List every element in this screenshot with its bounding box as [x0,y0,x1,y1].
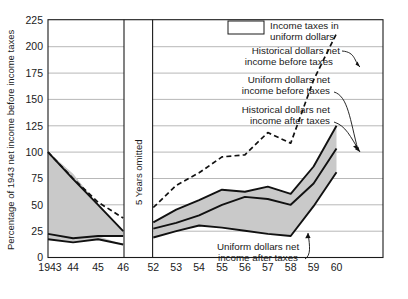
annotation-historical-after-taxes: Historical dollars net income after taxe… [242,104,360,152]
y-tick: 225 [25,14,43,26]
y-tick-labels: 225 200 175 150 125 100 75 50 25 0 [25,14,43,264]
x-tick: 46 [117,261,129,273]
annotation-historical-before-taxes: Historical dollars net income before tax… [245,45,360,67]
y-tick: 100 [25,146,43,158]
x-tick: 1943 [38,261,62,273]
annotation-line2: income before taxes [242,85,330,96]
annotation-line1: Historical dollars net [242,104,330,115]
y-tick: 175 [25,67,43,79]
band-left [48,152,123,244]
y-tick: 25 [31,225,43,237]
y-tick: 200 [25,40,43,52]
annotation-uniform-after-taxes: Uniform dollars net income after taxes [217,233,311,263]
legend: Income taxes in uniform dollars [228,20,339,42]
y-tick: 50 [31,199,43,211]
annotation-line2: income after taxes [218,252,298,263]
x-tick: 45 [92,261,104,273]
y-tick: 150 [25,93,43,105]
axis-break-gap [124,19,153,258]
x-tick: 53 [170,261,182,273]
x-tick: 52 [147,261,159,273]
x-tick: 54 [193,261,205,273]
annotation-line1: Uniform dollars net [217,241,299,252]
annotation-line1: Historical dollars net [252,45,340,56]
legend-swatch [228,21,264,34]
y-tick: 125 [25,120,43,132]
chart-figure: 225 200 175 150 125 100 75 50 25 0 Perce… [0,0,408,299]
x-tick: 44 [67,261,79,273]
annotation-line1: Uniform dollars net [248,74,330,85]
x-tick: 60 [331,261,343,273]
chart-canvas: 225 200 175 150 125 100 75 50 25 0 Perce… [0,0,408,299]
y-tick: 75 [31,172,43,184]
y-axis-title: Percentage of 1943 net income before inc… [5,30,16,250]
legend-label-line1: Income taxes in [270,20,339,31]
annotation-line2: income before taxes [245,56,333,67]
axis-break-label: 5 Years omitted [133,140,144,206]
legend-label-line2: uniform dollars [270,31,334,42]
annotation-line2: income after taxes [250,115,330,126]
x-tick: 59 [308,261,320,273]
